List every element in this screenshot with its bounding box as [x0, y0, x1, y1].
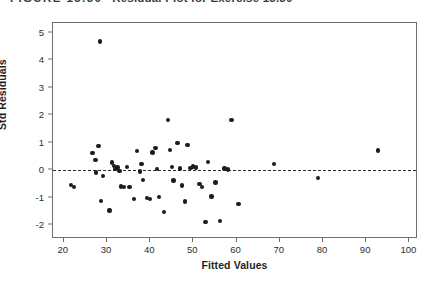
x-tick-label: 90 [351, 244, 379, 255]
x-tick-mark [408, 238, 409, 242]
data-point [96, 144, 100, 148]
data-point [272, 162, 276, 166]
data-point [94, 170, 98, 174]
x-tick-label: 80 [308, 244, 336, 255]
data-point [203, 220, 207, 224]
x-tick-label: 30 [92, 244, 120, 255]
figure-caption: FIGURE 15.30Residual Plot for Exercise 1… [10, 0, 431, 8]
data-point [101, 174, 105, 178]
data-point [148, 197, 152, 201]
y-tick-label: 0 [22, 164, 44, 175]
data-point [162, 210, 166, 214]
data-point [226, 167, 230, 171]
x-tick-label: 20 [49, 244, 77, 255]
data-point [166, 118, 170, 122]
y-tick-label: 1 [22, 136, 44, 147]
plot-area [52, 22, 417, 238]
x-tick-label: 100 [394, 244, 422, 255]
x-tick-mark [63, 238, 64, 242]
data-point [180, 183, 184, 187]
x-axis-title: Fitted Values [52, 259, 417, 271]
data-point [132, 197, 136, 201]
x-tick-mark [192, 238, 193, 242]
y-tick-label: -2 [22, 219, 44, 230]
data-point [168, 148, 172, 152]
figure-caption-text: Residual Plot for Exercise 15.30 [112, 0, 292, 4]
data-point [185, 143, 189, 147]
y-tick-label: 4 [22, 54, 44, 65]
y-tick-label: -1 [22, 191, 44, 202]
data-point [218, 219, 222, 223]
x-tick-label: 60 [222, 244, 250, 255]
x-tick-mark [149, 238, 150, 242]
y-tick-label: 3 [22, 81, 44, 92]
data-point [93, 158, 97, 162]
data-point [229, 118, 233, 122]
data-point [107, 208, 111, 212]
data-point [175, 141, 179, 145]
data-point [99, 199, 103, 203]
x-tick-label: 70 [265, 244, 293, 255]
data-point [135, 149, 139, 153]
data-point [141, 178, 145, 182]
x-tick-label: 50 [178, 244, 206, 255]
x-tick-mark [236, 238, 237, 242]
x-tick-mark [106, 238, 107, 242]
data-point [150, 150, 154, 154]
data-point [117, 169, 121, 173]
data-point [98, 39, 102, 43]
data-point [122, 185, 126, 189]
x-tick-mark [322, 238, 323, 242]
data-point [171, 178, 175, 182]
x-tick-mark [365, 238, 366, 242]
data-point [153, 146, 157, 150]
data-point [209, 194, 213, 198]
data-point [170, 165, 174, 169]
data-point [316, 176, 320, 180]
x-tick-label: 40 [135, 244, 163, 255]
y-tick-label: 2 [22, 109, 44, 120]
data-point [194, 165, 198, 169]
data-point [127, 185, 131, 189]
data-point [206, 160, 210, 164]
figure-caption-number: FIGURE 15.30 [10, 0, 102, 4]
x-tick-mark [279, 238, 280, 242]
y-axis-title: Std Residuals [0, 59, 8, 130]
data-point [157, 195, 161, 199]
data-point [139, 162, 143, 166]
data-point [178, 166, 182, 170]
y-tick-label: 5 [22, 26, 44, 37]
zero-reference-line [53, 170, 416, 171]
data-point [72, 185, 76, 189]
data-point [236, 202, 240, 206]
data-point [125, 165, 129, 169]
data-point [183, 199, 187, 203]
data-point [376, 148, 380, 152]
data-point [213, 180, 217, 184]
data-point [138, 169, 142, 173]
residual-plot-figure: FIGURE 15.30Residual Plot for Exercise 1… [0, 0, 431, 282]
data-point [200, 185, 204, 189]
data-point [90, 151, 94, 155]
